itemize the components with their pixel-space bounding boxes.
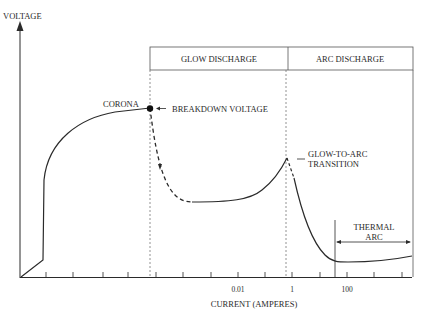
glow-to-arc-label-line2: TRANSITION: [308, 159, 359, 169]
x-tick-label-0-01: 0.01: [231, 285, 244, 294]
breakdown-point-marker: [147, 105, 153, 111]
breakdown-dashed-curve: [150, 108, 192, 202]
glow-discharge-label: GLOW DISCHARGE: [181, 54, 257, 64]
region-header-box: [150, 47, 413, 277]
x-axis-label: CURRENT (AMPERES): [211, 299, 298, 309]
down-arrow-icon: [158, 164, 162, 170]
thermal-arc-label-line2: ARC: [365, 232, 383, 242]
y-axis-label: VOLTAGE: [3, 11, 42, 21]
x-tick-label-1: 1: [290, 285, 294, 294]
corona-curve: [21, 108, 150, 277]
x-tick-label-100: 100: [341, 285, 353, 294]
glow-curve: [192, 158, 287, 202]
x-axis: [20, 272, 412, 278]
transition-dashed-curve: [287, 158, 294, 178]
y-axis-arrow-icon: [17, 21, 24, 31]
breakdown-arrow-icon: [156, 107, 166, 111]
x-axis-ticks: [46, 272, 402, 277]
voltage-current-diagram: VOLTAGE 0.01 1 100 CURRENT (AMPERES) GLO: [0, 0, 424, 318]
arc-discharge-label: ARC DISCHARGE: [316, 54, 384, 64]
corona-label: CORONA: [103, 99, 140, 109]
y-axis: [17, 21, 24, 278]
thermal-arc-label-line1: THERMAL: [353, 222, 394, 232]
breakdown-voltage-label: BREAKDOWN VOLTAGE: [172, 104, 268, 114]
glow-to-arc-label-line1: GLOW-TO-ARC: [308, 149, 368, 159]
arc-curve: [294, 178, 412, 262]
